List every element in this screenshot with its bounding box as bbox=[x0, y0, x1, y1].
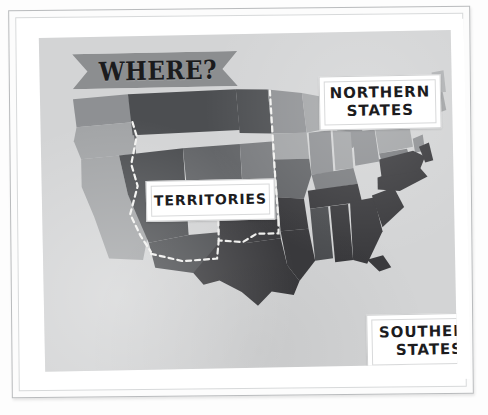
region-oregon bbox=[73, 122, 136, 159]
region-ohio bbox=[353, 129, 380, 165]
region-montana bbox=[128, 89, 240, 135]
label-southern-states-inner: SOUTHERN STATES bbox=[371, 317, 457, 365]
label-territories-inner: TERRITORIES bbox=[151, 184, 271, 217]
region-alabama bbox=[330, 204, 353, 262]
poster-mat: WHERE? NORTHERN STATES TERRITORIES bbox=[26, 19, 471, 387]
label-southern-states-line2: STATES bbox=[396, 341, 457, 360]
region-iowa bbox=[272, 133, 309, 160]
label-southern-states[interactable]: SOUTHERN STATES bbox=[366, 312, 457, 370]
region-washington bbox=[73, 94, 133, 127]
map-canvas: WHERE? NORTHERN STATES TERRITORIES bbox=[39, 30, 457, 372]
label-northern-states-inner: NORTHERN STATES bbox=[324, 79, 437, 125]
banner-title: WHERE? bbox=[72, 49, 238, 91]
label-northern-states-line2: STATES bbox=[347, 102, 414, 121]
region-arkansas bbox=[278, 197, 309, 232]
region-minnesota bbox=[268, 89, 307, 134]
where-banner: WHERE? bbox=[72, 51, 238, 89]
label-territories[interactable]: TERRITORIES bbox=[146, 178, 276, 221]
poster-photo: WHERE? NORTHERN STATES TERRITORIES bbox=[0, 0, 488, 415]
poster-frame: WHERE? NORTHERN STATES TERRITORIES bbox=[8, 6, 474, 398]
region-florida bbox=[367, 255, 391, 271]
label-northern-states[interactable]: NORTHERN STATES bbox=[319, 74, 442, 130]
region-mississippi bbox=[310, 206, 333, 260]
region-indiana bbox=[333, 130, 354, 170]
region-dakota-territory bbox=[236, 88, 272, 134]
label-territories-line1: TERRITORIES bbox=[154, 191, 267, 210]
region-illinois bbox=[309, 130, 334, 174]
region-missouri bbox=[274, 159, 312, 200]
